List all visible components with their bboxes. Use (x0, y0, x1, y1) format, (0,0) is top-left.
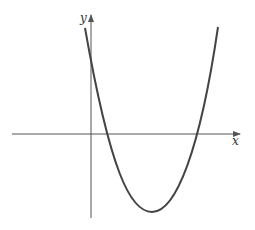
x-axis-label: x (232, 134, 239, 148)
graph-canvas: y x (0, 0, 255, 230)
parabola-curve (85, 27, 218, 212)
y-axis-label: y (79, 11, 87, 25)
